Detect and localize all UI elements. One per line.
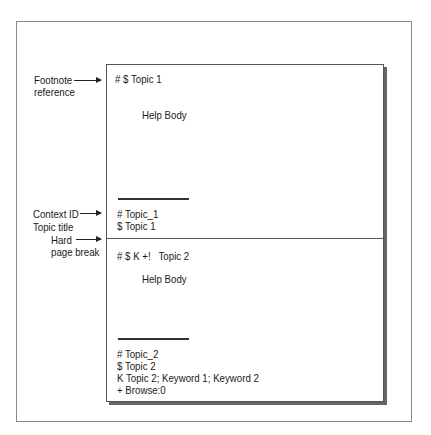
label-footnote: Footnote: [34, 74, 72, 86]
footnote-reference-arrow-icon: [74, 80, 101, 81]
label-reference: reference: [34, 86, 75, 98]
topic2-footnote-context-id: # Topic_2: [117, 348, 158, 360]
hard-page-break-line: [106, 238, 384, 239]
topic2-footnote-keywords: K Topic 2; Keyword 1; Keyword 2: [117, 372, 259, 384]
context-id-arrow-icon: [80, 213, 101, 214]
topic2-help-body: Help Body: [142, 273, 187, 285]
topic1-footnote-context-id: # Topic_1: [117, 208, 158, 220]
topic2-footnote-browse: + Browse:0: [117, 384, 166, 396]
hard-page-break-arrow-icon: [76, 239, 101, 240]
label-hard: Hard: [51, 234, 72, 246]
label-context-id: Context ID: [33, 208, 79, 220]
topic1-footnote-separator: [118, 198, 189, 200]
topic1-help-body: Help Body: [142, 109, 187, 121]
topic2-footnote-separator: [118, 338, 189, 340]
topic2-footnote-title: $ Topic 2: [117, 360, 156, 372]
topic1-footnote-title: $ Topic 1: [117, 220, 156, 232]
topic2-heading: # $ K +! Topic 2: [117, 250, 189, 262]
topic1-heading: # $ Topic 1: [115, 73, 162, 85]
label-page-break: page break: [51, 246, 99, 258]
label-topic-title: Topic title: [33, 221, 73, 233]
